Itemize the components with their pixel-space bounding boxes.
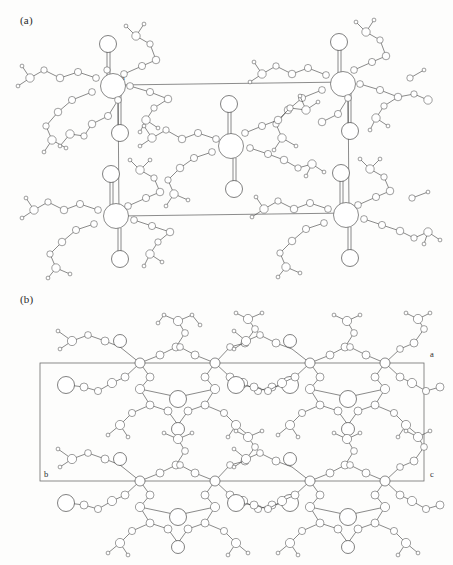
panel-a: (a) a b c [0,0,453,285]
panel-b: (b) a b c [0,285,453,565]
molecule-cluster [56,429,298,557]
panel-a-structure: a b c [0,0,453,285]
molecule-cluster [56,311,298,439]
molecule-cluster [16,22,172,154]
figure-container: (a) a b c [0,0,453,565]
molecule-cluster [228,311,445,439]
molecule-cluster [250,157,442,279]
molecule-cluster [138,94,326,208]
molecule-cluster [228,429,445,557]
molecule-cluster [248,18,432,152]
molecule-cluster [20,158,174,280]
axis-label-a: a [430,349,434,359]
axis-label-c: c [430,469,434,479]
axis-label-b: b [44,469,48,479]
panel-b-structure: a b c [0,285,453,565]
